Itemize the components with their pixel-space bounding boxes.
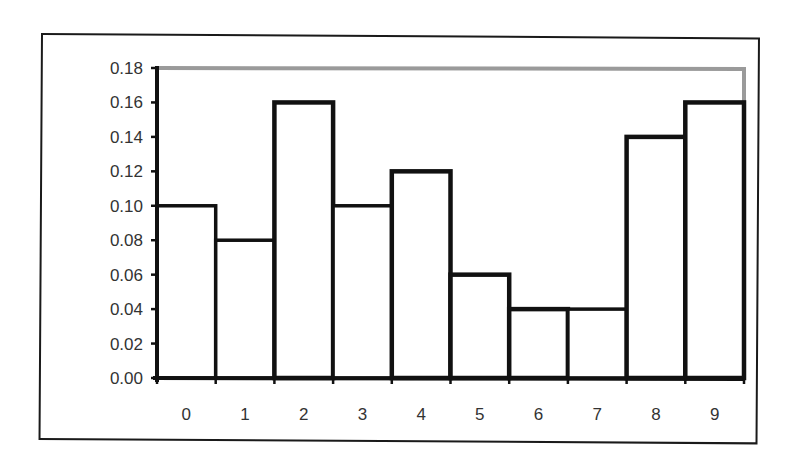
bar-2	[274, 102, 333, 378]
bar-7	[568, 309, 627, 378]
bar-6	[509, 309, 568, 378]
bar-8	[627, 137, 686, 378]
y-tick-label: 0.06	[110, 266, 143, 285]
x-tick-label: 8	[651, 405, 660, 424]
x-axis-line	[153, 378, 744, 379]
y-tick-label: 0.16	[110, 93, 143, 112]
x-tick-label: 6	[534, 405, 543, 424]
y-tick-label: 0.14	[110, 128, 143, 147]
bar-5	[451, 275, 510, 378]
x-tick-label: 1	[240, 405, 249, 424]
bar-4	[392, 171, 451, 378]
x-tick-label: 2	[299, 405, 308, 424]
x-tick-label: 3	[358, 405, 367, 424]
bar-chart: 0.000.020.040.060.080.100.120.140.160.18…	[0, 0, 791, 470]
x-tick-label: 0	[182, 405, 191, 424]
x-tick-label: 4	[416, 405, 425, 424]
y-tick-label: 0.00	[110, 369, 143, 388]
y-tick-label: 0.04	[110, 300, 143, 319]
bar-3	[333, 206, 392, 378]
bar-1	[216, 240, 275, 378]
x-axis: 0123456789	[153, 378, 744, 424]
bar-0	[157, 206, 216, 378]
y-tick-label: 0.10	[110, 197, 143, 216]
bars-group	[157, 102, 744, 378]
y-axis: 0.000.020.040.060.080.100.120.140.160.18	[110, 59, 157, 388]
x-tick-label: 5	[475, 405, 484, 424]
x-tick-label: 7	[593, 405, 602, 424]
y-tick-label: 0.12	[110, 162, 143, 181]
y-tick-label: 0.18	[110, 59, 143, 78]
y-tick-label: 0.08	[110, 231, 143, 250]
x-tick-label: 9	[710, 405, 719, 424]
y-tick-label: 0.02	[110, 335, 143, 354]
bar-9	[685, 102, 744, 378]
